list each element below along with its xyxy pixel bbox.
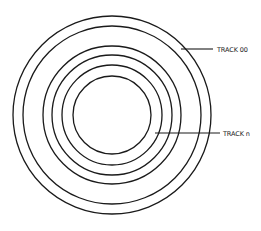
- track-circle-5: [62, 65, 162, 165]
- track-circle-3: [43, 46, 181, 184]
- track-circles: [13, 16, 211, 214]
- track-n-label: TRACK n: [222, 130, 250, 138]
- track-circle-4: [52, 55, 172, 175]
- track-00-label: TRACK 00: [216, 46, 248, 54]
- track-circle-6: [73, 76, 151, 154]
- track-circle-2: [23, 26, 201, 204]
- disk-tracks-diagram: TRACK 00 TRACK n: [0, 0, 261, 231]
